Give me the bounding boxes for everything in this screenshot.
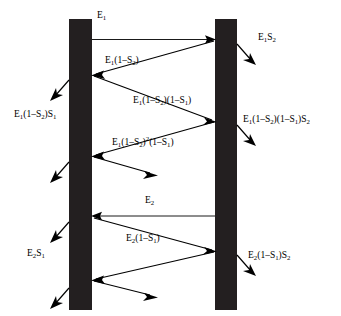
diagram-canvas: [0, 0, 341, 316]
ray-transmit-e2s1: [55, 222, 69, 238]
arrowhead-internal-truncated: [143, 171, 158, 179]
ray-transmit-e1-1ms2-s1: [55, 80, 69, 96]
ray-internal-truncated-bottom: [94, 281, 150, 295]
label-transmit-e2s1: E2S1: [27, 249, 45, 259]
ray-transmit-bottom-left: [55, 288, 69, 304]
left-surface-bar: [69, 19, 92, 310]
ray-transmit-unlabeled-left: [55, 162, 69, 178]
label-internal-e1-1ms2sq-1ms1: E1(1–S2)2(1–S1): [112, 138, 174, 148]
label-incident-e1: E1: [97, 11, 106, 21]
arrowhead-internal-truncated-bottom: [143, 293, 158, 301]
arrowhead-transmit-e1s2: [243, 53, 256, 65]
label-internal-e2-1ms1: E2(1–S1): [126, 234, 160, 244]
label-transmit-e1-1ms2-1ms1-s2: E1(1–S2)(1–S1)S2: [243, 115, 310, 125]
right-surface-bar: [215, 19, 237, 310]
ray-transmit-e1s2: [237, 44, 251, 60]
ray-internal-lower-rl: [96, 252, 214, 279]
label-internal-e1-1ms2-1ms1: E1(1–S2)(1–S1): [133, 96, 191, 106]
label-incident-e2: E2: [145, 196, 154, 206]
label-transmit-e1-1ms2-s1: E1(1–S2)S1: [14, 110, 56, 120]
label-transmit-e1s2: E1S2: [258, 33, 276, 43]
ray-transmit-e1-1ms2-1ms1-s2: [237, 125, 251, 141]
ray-diagram: E1 E1S2 E1(1–S2) E1(1–S2)S1 E1(1–S2)(1–S…: [0, 0, 341, 316]
label-transmit-e2-1ms1-s2: E2(1–S1)S2: [248, 251, 290, 261]
arrowhead-transmit-e2-1ms1-s2: [243, 264, 256, 276]
arrowhead-transmit-e1-1ms2-1ms1-s2: [243, 134, 256, 146]
arrowhead-internal-e1-1ms2-1ms1: [203, 118, 217, 126]
ray-internal-truncated: [94, 157, 150, 173]
label-internal-e1-1ms2: E1(1–S2): [105, 56, 139, 66]
